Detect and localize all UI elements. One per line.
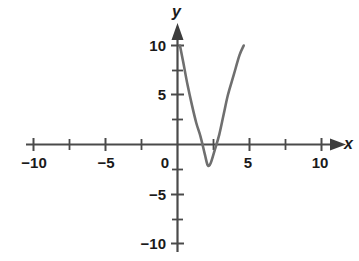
y-tick-label-5: 5 [143, 87, 166, 102]
x-tick-label-neg5: −5 [97, 155, 114, 170]
x-tick-label-5: 5 [244, 155, 252, 170]
coordinate-plane-svg [0, 0, 359, 261]
y-tick-label-neg5: −5 [135, 187, 166, 202]
y-axis-label: y [172, 4, 181, 20]
x-axis-label: x [344, 136, 353, 152]
x-tick-label-neg10: −10 [21, 155, 46, 170]
y-tick-label-neg10: −10 [128, 236, 166, 251]
parabola-curve [180, 46, 244, 167]
x-tick-label-10: 10 [312, 155, 329, 170]
x-tick-label-zero: 0 [161, 155, 169, 170]
y-axis-arrow-icon [172, 23, 184, 40]
y-tick-label-10: 10 [143, 38, 166, 53]
graph-figure: −10 −5 0 5 10 10 5 −5 −10 x y [0, 0, 359, 261]
